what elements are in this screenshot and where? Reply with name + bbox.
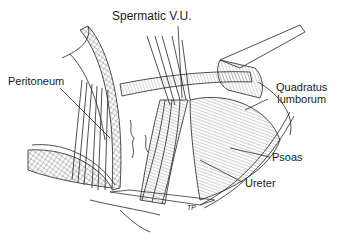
label-quadratus-line1: Quadratus	[276, 81, 327, 93]
label-psoas: Psoas	[272, 151, 303, 163]
label-ureter: Ureter	[245, 177, 276, 189]
label-quadratus-lumborum: Quadratus lumborum	[276, 81, 327, 105]
drawing	[0, 0, 346, 240]
label-spermatic-vessels: Spermatic V.U.	[112, 10, 192, 22]
label-quadratus-line2: lumborum	[276, 93, 327, 105]
anatomy-illustration: Spermatic V.U. Peritoneum Quadratus lumb…	[0, 0, 346, 240]
artist-signature: TP	[187, 202, 196, 214]
label-peritoneum: Peritoneum	[8, 75, 64, 87]
